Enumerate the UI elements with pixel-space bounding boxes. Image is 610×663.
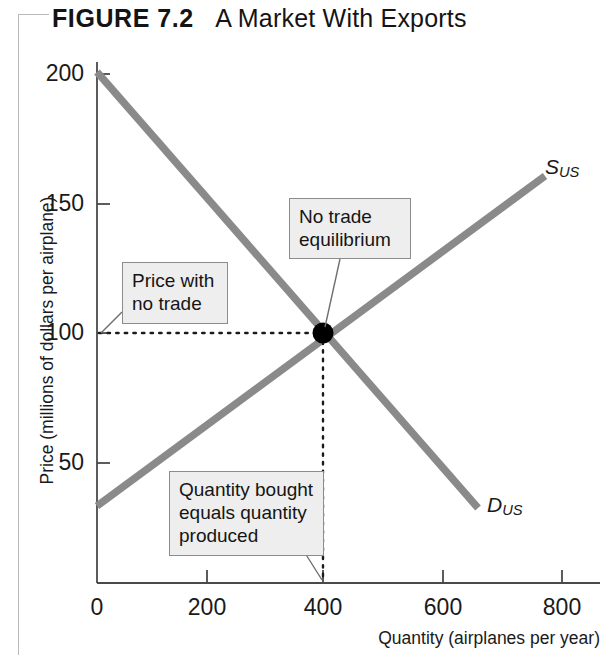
curve-label-supply-subscript: US: [559, 164, 579, 180]
annotation-quantity-bought-equals-produced: Quantity bought equals quantity produced: [169, 471, 324, 556]
x-tick-label-400: 400: [293, 594, 353, 621]
leader-line-price-with-no-trade: [101, 312, 122, 333]
figure-container: FIGURE 7.2 A Market With Exports: [0, 0, 610, 663]
annotation-price-with-no-trade: Price with no trade: [122, 262, 228, 324]
equilibrium-point-marker: [313, 323, 334, 344]
x-tick-label-800: 800: [532, 594, 592, 621]
leader-line-quantity-bought: [305, 553, 322, 580]
curve-label-supply-letter: S: [545, 155, 559, 178]
x-tick-label-200: 200: [177, 594, 237, 621]
x-axis-title: Quantity (airplanes per year): [300, 628, 600, 649]
y-tick-label-200: 200: [20, 60, 84, 87]
chart-plot-area: [0, 0, 610, 663]
curve-label-demand: DUS: [487, 493, 523, 518]
x-tick-label-600: 600: [413, 594, 473, 621]
annotation-no-trade-equilibrium: No trade equilibrium: [289, 198, 411, 259]
curve-label-demand-subscript: US: [502, 502, 522, 518]
x-tick-label-0: 0: [67, 594, 127, 621]
leader-line-no-trade-equilibrium: [325, 259, 340, 327]
curve-label-supply: SUS: [545, 155, 579, 180]
curve-label-demand-letter: D: [487, 493, 502, 516]
y-axis-title: Price (millions of dollars per airplane): [37, 131, 58, 551]
